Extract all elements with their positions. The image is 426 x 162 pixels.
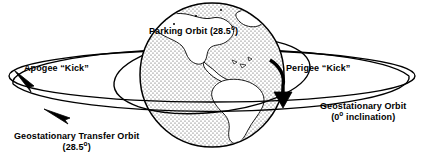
arctic-speck-2 (173, 23, 175, 25)
geo-incl-post: inclination) (343, 112, 395, 122)
orbit-diagram: Parking Orbit (28.5o) Apogee “Kick” Peri… (0, 0, 426, 162)
gto-line2: (28.5o) (14, 142, 139, 153)
label-geostationary-orbit: Geostationary Orbit (0o inclination) (320, 101, 406, 122)
label-apogee-kick: Apogee “Kick” (24, 63, 89, 74)
parking-orbit-text: Parking Orbit (28.5 (149, 26, 231, 36)
arctic-speck-3 (220, 9, 222, 11)
gto-line1: Geostationary Transfer Orbit (14, 131, 139, 141)
label-perigee-kick: Perigee “Kick” (286, 63, 350, 74)
transfer-orbit-direction-arrow (44, 109, 70, 124)
parking-orbit-text-tail: ) (235, 26, 238, 36)
geostationary-orbit-line1: Geostationary Orbit (320, 101, 406, 111)
label-parking-orbit: Parking Orbit (28.5o) (149, 26, 238, 37)
earth-globe (140, 3, 284, 147)
geostationary-orbit-line2: (0o inclination) (320, 112, 406, 123)
label-geostationary-transfer-orbit: Geostationary Transfer Orbit (28.5o) (14, 131, 139, 152)
transfer-orbit-arrowhead (44, 109, 70, 124)
gto-incl-pre: (28.5 (63, 142, 84, 152)
gto-incl-post: ) (88, 142, 91, 152)
arctic-speck-1 (195, 15, 197, 17)
